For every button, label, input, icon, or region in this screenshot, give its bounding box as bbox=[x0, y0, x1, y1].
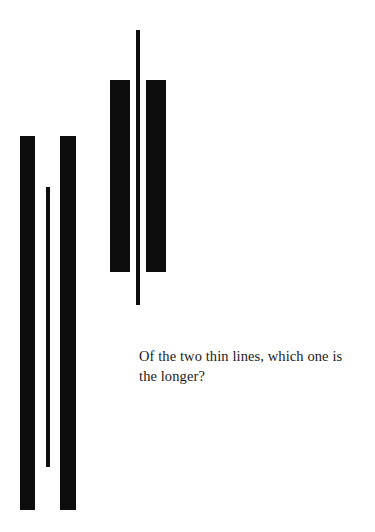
right-outer-bar bbox=[110, 80, 130, 272]
left-outer-bar bbox=[20, 136, 35, 510]
left-inner-bar bbox=[60, 136, 76, 510]
right-inner-bar bbox=[146, 80, 166, 272]
illusion-figure-page: Of the two thin lines, which one is the … bbox=[0, 0, 375, 532]
left-thin-line bbox=[46, 187, 50, 467]
figure-caption: Of the two thin lines, which one is the … bbox=[139, 346, 357, 386]
right-thin-line bbox=[136, 30, 140, 305]
